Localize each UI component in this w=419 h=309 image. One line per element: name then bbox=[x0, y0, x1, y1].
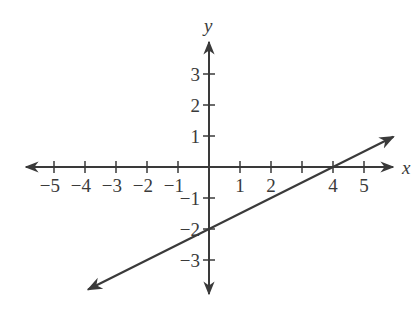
x-axis-label: x bbox=[401, 157, 411, 178]
x-tick-label: −3 bbox=[102, 175, 122, 196]
x-tick-label: −2 bbox=[133, 175, 153, 196]
x-tick-label: 1 bbox=[235, 175, 245, 196]
y-tick-label: 2 bbox=[191, 95, 201, 116]
coordinate-plane: −5−4−3−2−11245 321−1−2−3 x y bbox=[0, 0, 419, 309]
y-tick-label: −1 bbox=[180, 188, 200, 209]
y-tick-label: −2 bbox=[180, 219, 200, 240]
x-tick-label: 4 bbox=[328, 175, 338, 196]
y-tick-label: 1 bbox=[191, 126, 201, 147]
x-tick-label: 5 bbox=[359, 175, 369, 196]
x-tick-label: −4 bbox=[71, 175, 92, 196]
x-tick-label: −5 bbox=[40, 175, 60, 196]
x-tick-label: 2 bbox=[266, 175, 276, 196]
y-tick-label: −3 bbox=[180, 250, 200, 271]
y-axis-label: y bbox=[202, 15, 213, 36]
y-tick-label: 3 bbox=[191, 64, 201, 85]
data-line bbox=[88, 137, 393, 290]
